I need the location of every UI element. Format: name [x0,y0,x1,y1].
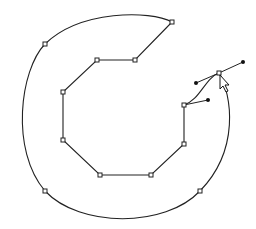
anchor-point[interactable] [149,173,153,177]
connecting-curve-path[interactable] [184,73,219,105]
handle-point-out[interactable] [241,60,245,64]
anchor-point[interactable] [198,189,202,193]
anchor-point[interactable] [133,58,137,62]
inner-octagon-path[interactable] [63,22,184,175]
anchor-point[interactable] [98,173,102,177]
anchor-point[interactable] [43,42,47,46]
vector-path-drawing[interactable] [0,0,256,229]
arrow-cursor-icon [220,75,229,92]
anchor-point[interactable] [43,189,47,193]
anchor-point[interactable] [182,103,186,107]
anchor-point[interactable] [61,138,65,142]
selected-anchor-point[interactable] [217,71,221,75]
anchor-point[interactable] [182,142,186,146]
direction-handle-out[interactable] [219,62,243,73]
outer-arc-path[interactable] [22,15,229,219]
handle-point-in[interactable] [194,81,198,85]
anchor-point[interactable] [95,58,99,62]
direction-handle-prev[interactable] [184,100,208,105]
handle-point-prev[interactable] [206,98,210,102]
drawing-canvas[interactable] [0,0,256,229]
anchor-point[interactable] [170,20,174,24]
anchor-point[interactable] [61,90,65,94]
